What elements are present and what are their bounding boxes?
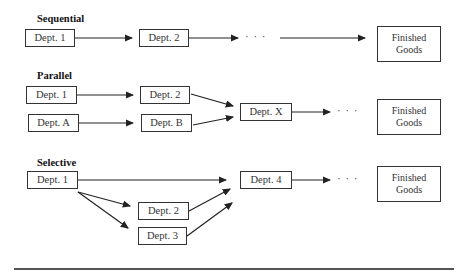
selective-dept-3-box: Dept. 3: [138, 227, 187, 245]
parallel-finished-goods-box: Finished Goods: [377, 99, 441, 135]
section-title-parallel: Parallel: [37, 70, 72, 81]
sequential-finished-goods-box: Finished Goods: [377, 26, 441, 62]
parallel-ellipsis: · · ·: [337, 104, 359, 116]
section-title-selective: Selective: [37, 157, 76, 168]
parallel-dept-x-box: Dept. X: [240, 103, 292, 121]
parallel-dept-1-box: Dept. 1: [26, 86, 77, 104]
parallel-dept-b-box: Dept. B: [141, 114, 192, 132]
sequential-ellipsis: · · ·: [245, 30, 267, 42]
section-title-sequential: Sequential: [37, 13, 84, 24]
parallel-dept-2-box: Dept. 2: [140, 86, 190, 104]
sequential-dept-1-box: Dept. 1: [25, 29, 75, 47]
selective-dept-4-box: Dept. 4: [240, 171, 292, 189]
bottom-divider: [14, 268, 454, 270]
selective-ellipsis: · · ·: [337, 172, 359, 184]
parallel-dept-a-box: Dept. A: [28, 114, 79, 132]
sequential-dept-2-box: Dept. 2: [139, 29, 189, 47]
selective-dept-2-box: Dept. 2: [138, 202, 189, 220]
selective-finished-goods-box: Finished Goods: [377, 166, 441, 202]
selective-dept-1-box: Dept. 1: [27, 171, 78, 189]
